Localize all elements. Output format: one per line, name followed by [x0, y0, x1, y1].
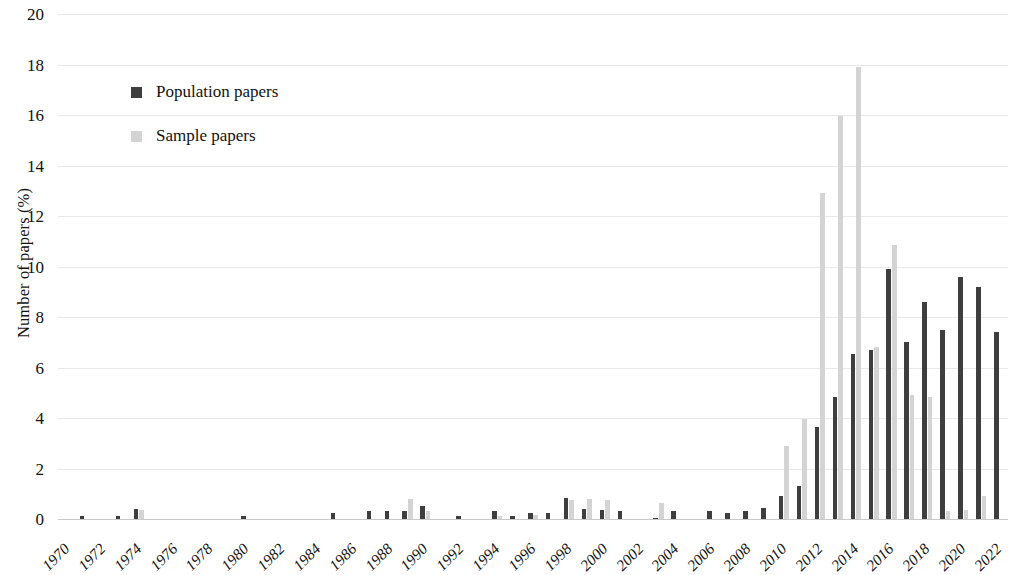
y-axis-tick-label: 0 [10, 511, 44, 528]
legend-item-label: Population papers [156, 82, 278, 102]
year-bar-group [578, 14, 596, 519]
x-axis-tick-labels: 1970197219741976197819801982198419861988… [58, 519, 1008, 575]
sample-bar [659, 503, 664, 519]
sample-bar [892, 245, 897, 519]
sample-bar [874, 347, 879, 519]
population-bar [420, 506, 425, 519]
year-bar-group [990, 14, 1008, 519]
x-axis-tick-label: 2000 [576, 540, 611, 575]
x-axis-tick-label: 2004 [648, 540, 683, 575]
year-bar-group [399, 14, 417, 519]
population-bar [367, 511, 372, 519]
x-axis-tick-label: 1984 [290, 540, 325, 575]
year-bar-group [452, 14, 470, 519]
population-bar [869, 350, 874, 519]
year-bar-group [775, 14, 793, 519]
y-axis-tick-label: 18 [10, 56, 44, 73]
y-axis-tick-label: 8 [10, 309, 44, 326]
year-bar-group [614, 14, 632, 519]
population-bar [958, 277, 963, 519]
population-bar [779, 496, 784, 519]
year-bar-group [596, 14, 614, 519]
x-axis-tick-label: 1990 [397, 540, 432, 575]
year-bar-group [811, 14, 829, 519]
sample-bar [802, 419, 807, 519]
population-bar [761, 508, 766, 519]
population-bar [402, 511, 407, 519]
population-bar [582, 509, 587, 519]
x-axis-tick-label: 1994 [469, 540, 504, 575]
population-bar [385, 511, 390, 519]
population-bar [851, 354, 856, 519]
x-axis-tick-label: 2010 [756, 540, 791, 575]
x-axis-tick-label: 2018 [899, 540, 934, 575]
x-axis-tick-label: 2016 [863, 540, 898, 575]
x-axis-tick-label: 2020 [935, 540, 970, 575]
population-bar [564, 498, 569, 519]
legend-item-label: Sample papers [156, 126, 256, 146]
legend-item-population: Population papers [131, 78, 361, 106]
year-bar-group [76, 14, 94, 519]
population-bar [994, 332, 999, 519]
population-bar [922, 302, 927, 519]
bar-chart: Number of papers (%) 02468101214161820 1… [0, 0, 1016, 575]
y-axis-tick-label: 4 [10, 410, 44, 427]
sample-bar [820, 193, 825, 519]
year-bar-group [112, 14, 130, 519]
sample-bar [569, 500, 574, 519]
year-bar-group [685, 14, 703, 519]
year-bar-group [416, 14, 434, 519]
sample-swatch-icon [131, 131, 142, 142]
population-bar [904, 342, 909, 519]
population-bar [743, 511, 748, 519]
sample-bar [946, 511, 951, 519]
x-axis-tick-label: 2002 [612, 540, 647, 575]
year-bar-group [936, 14, 954, 519]
x-axis-tick-label: 1986 [325, 540, 360, 575]
year-bar-group [94, 14, 112, 519]
sample-bar [910, 395, 915, 519]
year-bar-group [757, 14, 775, 519]
year-bar-group [506, 14, 524, 519]
x-axis-tick-label: 2014 [827, 540, 862, 575]
x-axis-tick-label: 1998 [541, 540, 576, 575]
y-axis-tick-label: 16 [10, 107, 44, 124]
year-bar-group [650, 14, 668, 519]
y-axis-tick-label: 12 [10, 208, 44, 225]
population-bar [618, 511, 623, 519]
population-bar [134, 509, 139, 519]
sample-bar [408, 499, 413, 519]
year-bar-group [865, 14, 883, 519]
x-axis-tick-label: 1988 [361, 540, 396, 575]
year-bar-group [524, 14, 542, 519]
x-axis-tick-label: 2022 [971, 540, 1006, 575]
x-axis-tick-label: 1976 [146, 540, 181, 575]
y-axis-tick-labels: 02468101214161820 [0, 0, 44, 575]
population-bar [797, 486, 802, 519]
x-axis-tick-label: 1980 [218, 540, 253, 575]
year-bar-group [470, 14, 488, 519]
year-bar-group [739, 14, 757, 519]
year-bar-group [847, 14, 865, 519]
population-bar [976, 287, 981, 519]
year-bar-group [829, 14, 847, 519]
year-bar-group [900, 14, 918, 519]
x-axis-tick-label: 2008 [720, 540, 755, 575]
year-bar-group [954, 14, 972, 519]
year-bar-group [542, 14, 560, 519]
x-axis-tick-label: 1974 [110, 540, 145, 575]
population-bar [886, 269, 891, 519]
chart-legend: Population papersSample papers [131, 78, 361, 166]
y-axis-tick-label: 10 [10, 258, 44, 275]
year-bar-group [434, 14, 452, 519]
x-axis-tick-label: 2006 [684, 540, 719, 575]
x-axis-tick-label: 1992 [433, 540, 468, 575]
sample-bar [982, 496, 987, 519]
x-axis-tick-label: 1996 [505, 540, 540, 575]
x-axis-tick-label: 1982 [254, 540, 289, 575]
sample-bar [784, 446, 789, 519]
y-axis-tick-label: 20 [10, 6, 44, 23]
y-axis-tick-label: 6 [10, 359, 44, 376]
sample-bar [928, 397, 933, 519]
year-bar-group [488, 14, 506, 519]
